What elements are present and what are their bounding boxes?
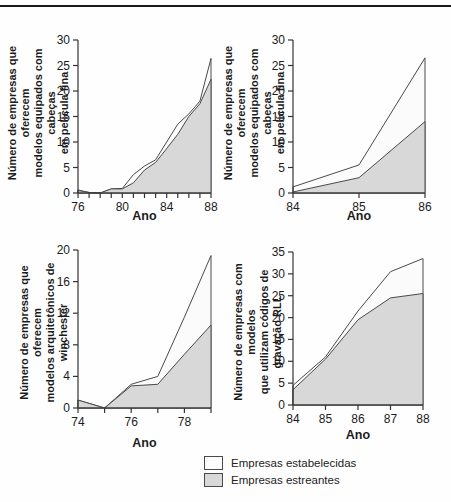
- legend-swatch-entrant-icon: [204, 473, 223, 487]
- y-tick-label: 0: [278, 398, 285, 412]
- page-top-rule: [0, 5, 451, 7]
- legend-swatch-established-icon: [204, 456, 223, 470]
- y-tick-label: 16: [57, 275, 71, 289]
- y-tick-label: 10: [57, 135, 71, 149]
- x-tick-label: 85: [319, 412, 333, 426]
- y-tick-label: 5: [278, 161, 285, 175]
- x-axis-title: Ano: [293, 428, 423, 442]
- y-tick-label: 10: [272, 354, 286, 368]
- legend-label-established: Empresas estabelecidas: [231, 457, 356, 469]
- y-tick-label: 20: [57, 243, 71, 257]
- x-axis-title: Ano: [78, 209, 211, 223]
- y-tick-label: 15: [57, 110, 71, 124]
- chart-rll: 051015202530358485868788: [255, 242, 436, 431]
- x-tick-label: 87: [384, 412, 398, 426]
- x-axis-title: Ano: [293, 209, 425, 223]
- y-tick-label: 0: [278, 186, 285, 200]
- y-tick-label: 0: [63, 401, 70, 415]
- x-tick-label: 88: [416, 412, 430, 426]
- y-tick-label: 12: [57, 306, 71, 320]
- figure-canvas: Número de empresas que oferecem modelos …: [0, 0, 451, 502]
- y-tick-label: 4: [63, 369, 70, 383]
- y-tick-label: 20: [272, 84, 286, 98]
- legend-label-entrant: Empresas estreantes: [231, 474, 340, 486]
- x-axis-title: Ano: [78, 436, 211, 450]
- y-tick-label: 30: [272, 33, 286, 47]
- x-tick-label: 86: [351, 412, 365, 426]
- y-tick-label: 10: [272, 135, 286, 149]
- x-tick-label: 78: [178, 415, 192, 429]
- y-tick-label: 30: [57, 33, 71, 47]
- legend: Empresas estabelecidas Empresas estreant…: [204, 455, 356, 489]
- chart-thin-film-all-years: 05101520253076808488: [40, 30, 224, 219]
- y-tick-label: 8: [63, 338, 70, 352]
- y-tick-label: 15: [272, 110, 286, 124]
- y-tick-label: 25: [272, 59, 286, 73]
- chart-winchester: 048121620747678: [40, 240, 224, 434]
- y-tick-label: 20: [272, 311, 286, 325]
- y-tick-label: 25: [272, 289, 286, 303]
- x-tick-label: 76: [125, 415, 139, 429]
- chart-thin-film-recent-years: 051015202530848586: [255, 30, 438, 219]
- legend-item-entrant: Empresas estreantes: [204, 472, 356, 488]
- y-tick-label: 30: [272, 267, 286, 281]
- x-tick-label: 84: [286, 412, 300, 426]
- y-tick-label: 35: [272, 245, 286, 259]
- y-tick-label: 20: [57, 84, 71, 98]
- y-tick-label: 15: [272, 332, 286, 346]
- legend-item-established: Empresas estabelecidas: [204, 455, 356, 471]
- y-tick-label: 5: [63, 161, 70, 175]
- y-tick-label: 25: [57, 59, 71, 73]
- y-tick-label: 5: [278, 376, 285, 390]
- x-tick-label: 74: [71, 415, 85, 429]
- y-tick-label: 0: [63, 186, 70, 200]
- area-series-filled-area: [78, 79, 211, 193]
